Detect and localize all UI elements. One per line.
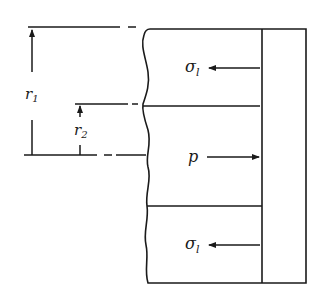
pressure-label: p (188, 147, 198, 166)
stress-diagram: r1 r2 σl p σl (0, 0, 324, 302)
r2-label: r2 (74, 121, 88, 140)
sigma-top-label: σl (185, 57, 200, 79)
r1-label: r1 (25, 85, 39, 104)
sigma-bottom-label: σl (185, 234, 200, 256)
